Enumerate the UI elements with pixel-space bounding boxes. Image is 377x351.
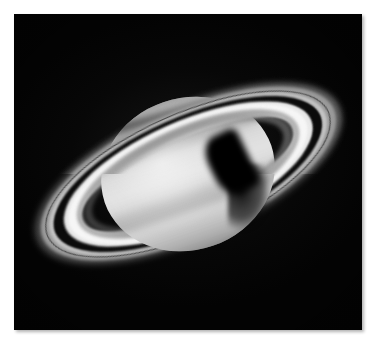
saturn-scene	[14, 14, 362, 330]
image-caption	[14, 334, 362, 348]
page-root	[0, 0, 377, 351]
ring-system-front	[14, 14, 362, 174]
saturn-photograph	[14, 14, 362, 330]
